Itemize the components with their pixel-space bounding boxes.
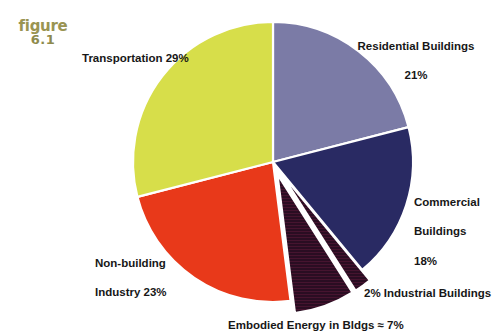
callout-industrial-text: 2% Industrial Buildings xyxy=(364,286,496,301)
callout-commercial-buildings: Commercial Buildings 18% xyxy=(414,180,494,283)
callout-commercial-line3: 18% xyxy=(414,254,494,269)
callout-nonbuilding-line1: Non-building xyxy=(95,256,199,271)
callout-commercial-line2: Buildings xyxy=(414,224,494,239)
callout-commercial-line1: Commercial xyxy=(414,195,494,210)
callout-residential-line2: 21% xyxy=(355,68,477,83)
callout-nonbuilding-line2: Industry 23% xyxy=(95,285,199,300)
callout-residential-buildings: Residential Buildings 21% xyxy=(355,24,477,98)
callout-non-building-industry: Non-building Industry 23% xyxy=(95,241,199,315)
callout-embodied-energy: Embodied Energy in Bldgs ≈ 7% xyxy=(228,303,444,335)
callout-residential-line1: Residential Buildings xyxy=(355,39,477,54)
callout-transportation: Transportation 29% xyxy=(82,36,202,80)
callout-embodied-text: Embodied Energy in Bldgs ≈ 7% xyxy=(228,318,444,333)
callout-transportation-text: Transportation 29% xyxy=(82,51,202,66)
